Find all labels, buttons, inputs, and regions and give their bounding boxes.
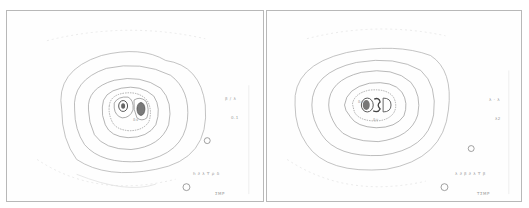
scale-circle [183, 184, 190, 191]
marker-circle [204, 138, 210, 144]
center-label: δν [373, 117, 379, 122]
contour-panel-left: β / λ 0.1 h ∂ λ ϒ ρ δ ΣΜΡ δν [6, 10, 264, 202]
annotation-label: β / λ [225, 96, 236, 101]
marker-circle [468, 146, 474, 152]
core-lobes-right [361, 98, 391, 112]
figure-caption: ΣΜΡ [215, 191, 225, 196]
axis-tick-labels: λ ∂ β ∂ λ ϒ β [455, 171, 486, 176]
center-label: δν [133, 117, 139, 122]
scale-circle [441, 184, 448, 191]
center-label: δν [358, 99, 364, 104]
contour-map-left [7, 11, 263, 201]
contour-panel-right: λ · λ λ2 λ ∂ β ∂ λ ϒ β ΤΣΜΡ δν δν [266, 10, 522, 202]
annotation-label: λ2 [495, 116, 501, 121]
figure-caption: ΤΣΜΡ [477, 191, 490, 196]
annotation-label: 0.1 [231, 115, 239, 120]
annotation-label: λ · λ [489, 97, 500, 102]
axis-tick-labels: h ∂ λ ϒ ρ δ [193, 171, 220, 176]
